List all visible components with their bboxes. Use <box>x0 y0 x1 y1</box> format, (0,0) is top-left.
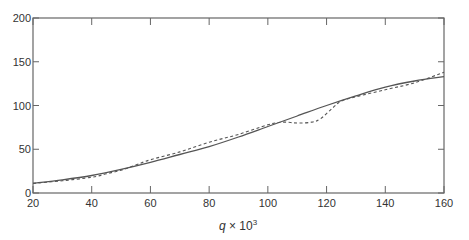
chart-canvas: 20406080100120140160050100150200 q × 103 <box>0 0 469 240</box>
series-solid-line <box>33 77 444 184</box>
y-tick-label: 150 <box>13 56 31 68</box>
x-tick-label: 160 <box>435 197 453 209</box>
x-tick-label: 80 <box>203 197 215 209</box>
x-axis-label-text: × 10 <box>226 219 253 233</box>
x-tick-label: 100 <box>259 197 277 209</box>
y-tick-label: 50 <box>19 143 31 155</box>
y-tick-label: 200 <box>13 12 31 24</box>
y-tick-label: 100 <box>13 100 31 112</box>
x-tick-label: 120 <box>317 197 335 209</box>
y-tick-label: 0 <box>25 187 31 199</box>
x-tick-label: 40 <box>86 197 98 209</box>
x-tick-label: 140 <box>376 197 394 209</box>
series-group <box>33 72 444 183</box>
plot-frame <box>33 18 444 193</box>
x-axis-label: q × 103 <box>219 218 258 233</box>
x-tick-label: 60 <box>144 197 156 209</box>
series-dashed-line <box>33 72 444 183</box>
line-chart: 20406080100120140160050100150200 q × 103 <box>0 0 469 240</box>
x-axis-label-sup: 3 <box>253 218 258 227</box>
